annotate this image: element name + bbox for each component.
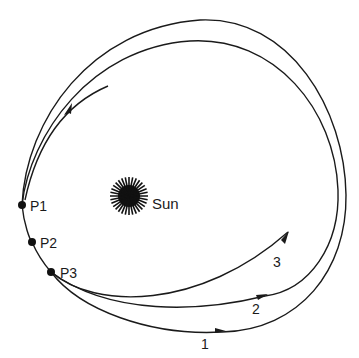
point-p3-marker bbox=[47, 268, 55, 276]
orbit-path-3 bbox=[51, 232, 288, 297]
arrow-path-2-icon bbox=[256, 294, 268, 300]
point-p2-marker bbox=[28, 238, 36, 246]
arrow-inner-icon bbox=[64, 103, 72, 115]
orbit-path-1 bbox=[22, 20, 346, 333]
sun-label: Sun bbox=[152, 195, 179, 212]
path-3-label: 3 bbox=[273, 254, 281, 270]
orbit-diagram: Sun P1 P2 P3 1 2 3 bbox=[0, 0, 359, 358]
point-p2-label: P2 bbox=[40, 235, 57, 251]
point-p1-marker bbox=[18, 201, 26, 209]
inner-arc bbox=[25, 86, 108, 200]
sun-icon bbox=[110, 177, 148, 215]
point-p1-label: P1 bbox=[30, 198, 47, 214]
point-p3-label: P3 bbox=[60, 265, 77, 281]
path-2-label: 2 bbox=[252, 301, 260, 317]
path-1-label: 1 bbox=[201, 336, 209, 352]
